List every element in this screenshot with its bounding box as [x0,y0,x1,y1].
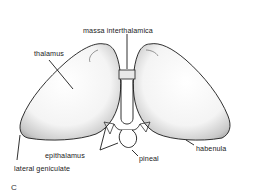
lateral-geniculate-leader [17,135,20,160]
right-thalamus-shape [133,44,230,140]
third-ventricle-outline [121,80,133,124]
massa-interthalamica-shape [119,70,135,79]
label-thalamus: thalamus [34,50,64,57]
habenula-leader [186,140,194,145]
epithalamus-outline [114,124,140,130]
label-massa-interthalamica: massa interthalamica [83,27,153,34]
thalamus-diagram: massa interthalamica thalamus epithalamu… [0,0,255,193]
label-habenula: habenula [196,145,226,152]
panel-letter: C [11,184,17,192]
pineal-shape [119,130,136,148]
label-pineal: pineal [139,155,159,162]
label-epithalamus: epithalamus [45,152,85,159]
pineal-leader [132,150,138,156]
label-lateral-geniculate: lateral geniculate [14,165,70,172]
